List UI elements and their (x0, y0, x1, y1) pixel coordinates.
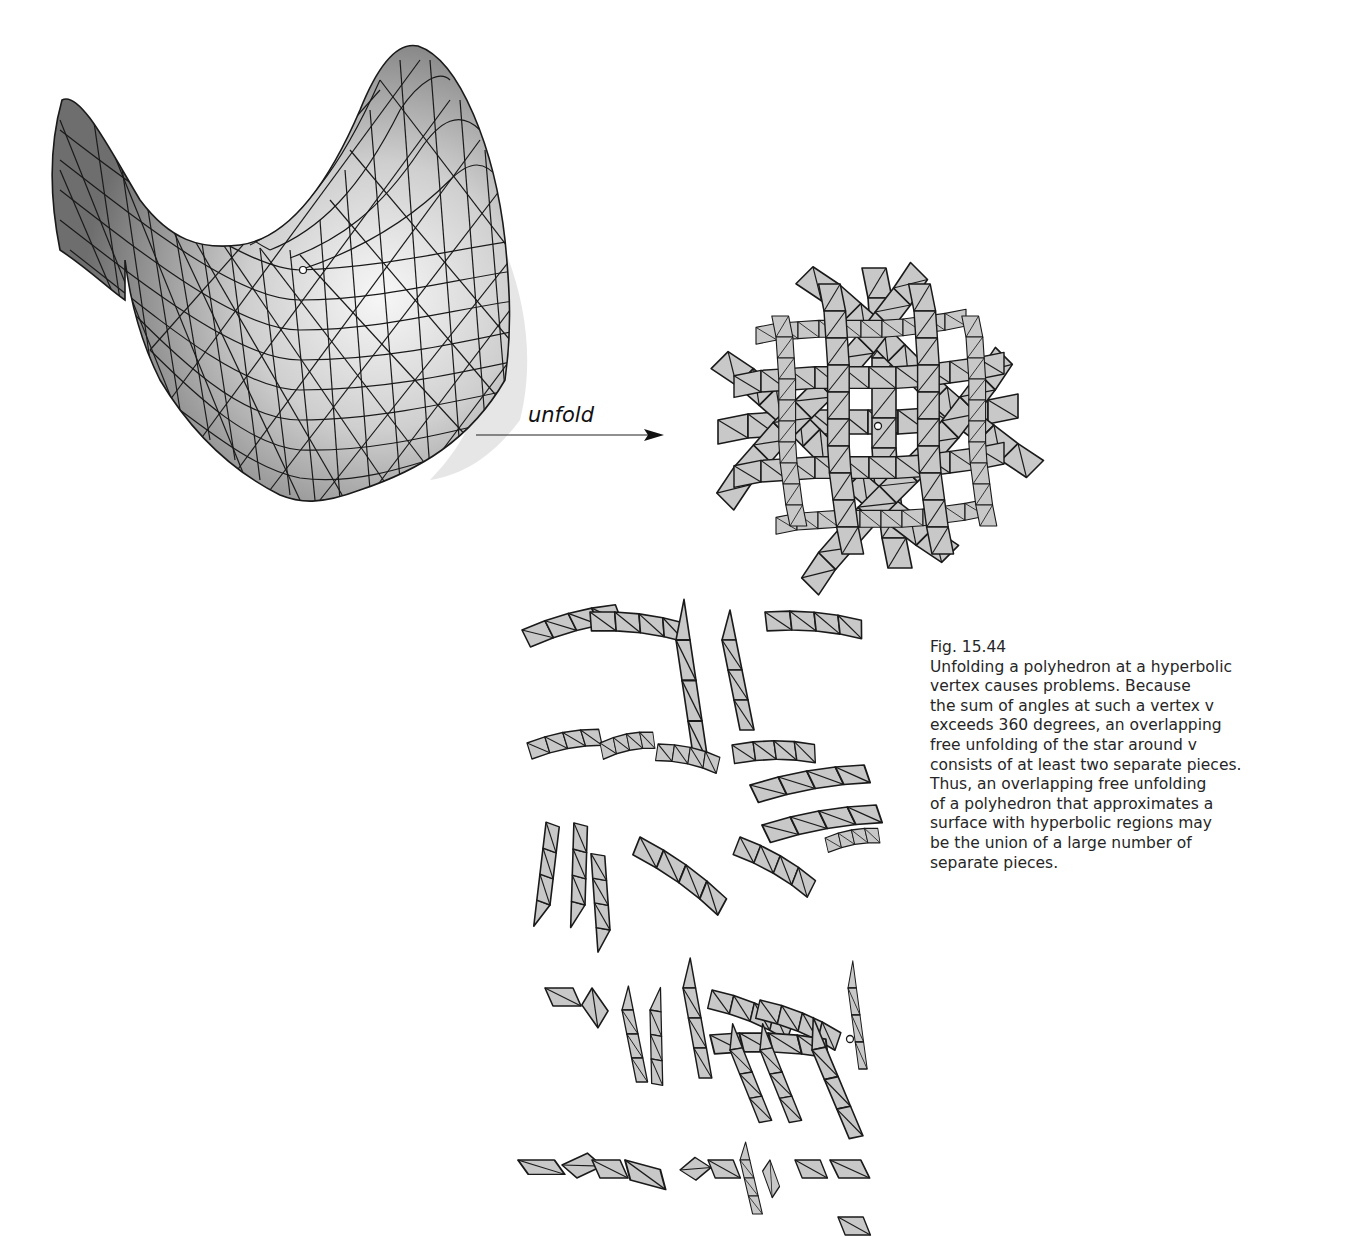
figure-number: Fig. 15.44 (930, 638, 1340, 658)
caption-line: of a polyhedron that approximates a (930, 795, 1340, 815)
caption-line: Thus, an overlapping free unfolding (930, 775, 1340, 795)
vertex-v-marker (300, 267, 307, 274)
caption-line: exceeds 360 degrees, an overlapping (930, 716, 1340, 736)
vertex-v-marker (847, 1036, 854, 1043)
caption-line: consists of at least two separate pieces… (930, 756, 1340, 776)
saddle-body (52, 45, 510, 501)
figure-caption: Fig. 15.44 Unfolding a polyhedron at a h… (930, 638, 1340, 873)
caption-line: Unfolding a polyhedron at a hyperbolic (930, 658, 1340, 678)
vertex-v-marker (875, 423, 882, 430)
unfold-label: unfold (528, 403, 594, 427)
caption-line: free unfolding of the star around v (930, 736, 1340, 756)
saddle-surface-figure (0, 0, 540, 520)
caption-line: vertex causes problems. Because (930, 677, 1340, 697)
caption-line: separate pieces. (930, 854, 1340, 874)
caption-line: be the union of a large number of (930, 834, 1340, 854)
caption-line: the sum of angles at such a vertex v (930, 697, 1340, 717)
caption-line: surface with hyperbolic regions may (930, 814, 1340, 834)
